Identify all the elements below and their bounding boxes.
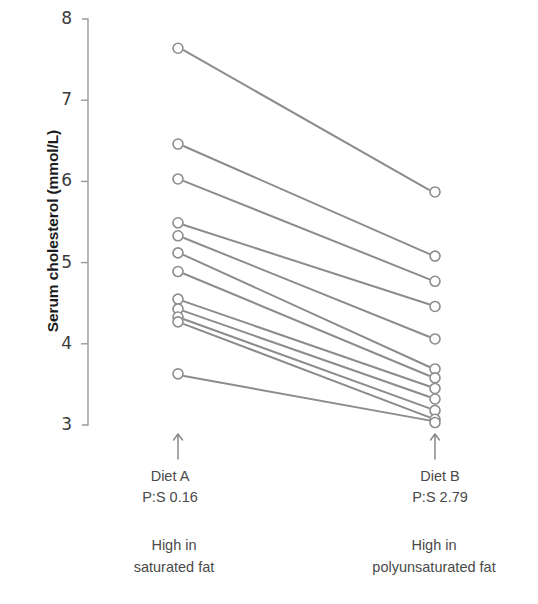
group-label-diet-b-name: Diet B [350, 466, 530, 487]
caption-diet-a: High in saturated fat [88, 534, 260, 578]
slope-line [184, 319, 429, 408]
data-point-marker [173, 294, 183, 304]
data-point-marker [173, 248, 183, 258]
caption-diet-a-line1: High in [88, 534, 260, 556]
data-point-marker [173, 369, 183, 379]
caption-diet-b-line2: polyunsaturated fat [330, 556, 538, 578]
data-point-marker [430, 301, 440, 311]
group-label-diet-a-name: Diet A [80, 466, 260, 487]
data-series-group [173, 43, 440, 427]
slope-line [184, 301, 429, 386]
data-point-marker [430, 187, 440, 197]
data-point-marker [430, 373, 440, 383]
data-point-marker [430, 418, 440, 428]
data-point-marker [173, 139, 183, 149]
data-point-marker [430, 251, 440, 261]
data-point-marker [173, 174, 183, 184]
group-label-diet-a-ratio: P:S 0.16 [80, 487, 260, 508]
arrow-up-icon-diet-b [431, 434, 440, 459]
data-point-marker [430, 394, 440, 404]
caption-diet-b: High in polyunsaturated fat [330, 534, 538, 578]
data-point-marker [430, 276, 440, 286]
caption-diet-b-line1: High in [330, 534, 538, 556]
arrow-up-icon-diet-a [174, 434, 183, 459]
group-label-diet-a: Diet A P:S 0.16 [80, 466, 260, 508]
data-point-marker [173, 43, 183, 53]
data-point-marker [430, 383, 440, 393]
data-point-marker [173, 231, 183, 241]
data-point-marker [173, 267, 183, 277]
caption-diet-a-line2: saturated fat [88, 556, 260, 578]
slope-line [184, 50, 429, 189]
slope-chart: Serum cholesterol (mmol/L) 345678 Diet A… [0, 0, 538, 604]
group-label-diet-b-ratio: P:S 2.79 [350, 487, 530, 508]
slope-line [184, 238, 429, 337]
slope-line [184, 255, 429, 367]
data-point-marker [173, 218, 183, 228]
plot-area [0, 0, 538, 604]
y-axis-spine [82, 19, 88, 425]
slope-line [184, 324, 429, 417]
slope-line [184, 376, 429, 420]
data-point-marker [173, 317, 183, 327]
data-point-marker [430, 334, 440, 344]
group-label-diet-b: Diet B P:S 2.79 [350, 466, 530, 508]
